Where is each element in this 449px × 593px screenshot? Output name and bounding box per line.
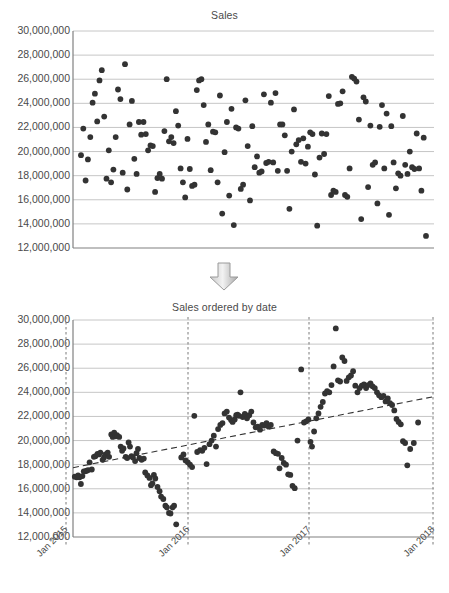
data-point	[229, 106, 235, 112]
data-point	[191, 413, 197, 419]
data-point	[402, 440, 408, 446]
data-point	[407, 446, 413, 452]
data-point	[175, 123, 181, 129]
data-point	[314, 223, 320, 229]
data-point	[243, 97, 249, 103]
data-point	[121, 446, 127, 452]
data-point	[400, 113, 406, 119]
data-point	[311, 429, 317, 435]
data-point	[199, 76, 205, 82]
data-point	[203, 139, 209, 145]
data-point	[289, 149, 295, 155]
data-point	[97, 78, 103, 84]
data-point	[284, 168, 290, 174]
data-point	[379, 102, 385, 108]
data-point	[231, 222, 237, 228]
data-point	[164, 505, 170, 511]
data-point	[310, 131, 316, 137]
data-point	[180, 179, 186, 185]
data-point	[333, 326, 339, 332]
data-point	[254, 154, 260, 160]
data-point	[381, 166, 387, 172]
data-point	[104, 176, 110, 182]
data-point	[354, 79, 360, 85]
data-point	[298, 367, 304, 373]
data-point	[201, 102, 207, 108]
data-point	[135, 446, 141, 452]
data-point	[377, 124, 383, 130]
data-point	[181, 452, 187, 458]
data-point	[152, 476, 158, 482]
data-point	[115, 87, 121, 93]
data-point	[391, 160, 397, 166]
data-point	[124, 187, 130, 193]
data-point	[275, 168, 281, 174]
data-point	[113, 134, 119, 140]
data-point	[368, 123, 374, 129]
data-point	[331, 364, 337, 370]
data-point	[168, 134, 174, 140]
data-point	[268, 100, 274, 106]
data-point	[317, 155, 323, 161]
plot-area-bottom	[0, 296, 449, 593]
data-point	[344, 194, 350, 200]
data-point	[220, 420, 226, 426]
data-point	[204, 461, 210, 467]
data-point	[261, 91, 267, 97]
data-point	[217, 93, 223, 99]
data-point	[211, 433, 217, 439]
data-point	[292, 485, 298, 491]
data-point	[375, 201, 381, 207]
data-point	[118, 96, 124, 102]
data-point	[402, 162, 408, 168]
data-point	[416, 166, 422, 172]
data-point	[224, 409, 230, 415]
data-point	[101, 114, 107, 120]
data-point	[141, 119, 147, 125]
data-point	[171, 140, 177, 146]
data-point	[90, 100, 96, 106]
data-point	[131, 156, 137, 162]
data-point	[213, 444, 219, 450]
data-point	[245, 143, 251, 149]
data-point	[306, 417, 312, 423]
data-point	[173, 108, 179, 114]
data-point	[187, 166, 193, 172]
data-point	[363, 99, 369, 105]
data-point	[283, 462, 289, 468]
data-point	[421, 135, 427, 141]
data-point	[205, 122, 211, 128]
data-point	[160, 496, 166, 502]
data-point	[85, 157, 91, 163]
data-point	[303, 161, 309, 167]
data-point	[78, 152, 84, 158]
data-point	[337, 379, 343, 385]
data-point	[108, 179, 114, 185]
data-point	[189, 464, 195, 470]
data-point	[333, 189, 339, 195]
data-point	[273, 90, 279, 96]
data-point	[268, 422, 274, 428]
data-point	[350, 368, 356, 374]
data-point	[122, 61, 128, 67]
data-point	[340, 88, 346, 94]
data-point	[87, 134, 93, 140]
data-point	[127, 122, 133, 128]
data-point	[212, 129, 218, 135]
data-point	[178, 166, 184, 172]
data-point	[78, 481, 84, 487]
data-point	[324, 131, 330, 137]
data-point	[236, 126, 242, 132]
data-point	[300, 135, 306, 141]
data-point	[386, 212, 392, 218]
trendline	[73, 397, 434, 468]
data-point	[173, 521, 179, 527]
data-point	[143, 131, 149, 137]
data-point	[280, 122, 286, 128]
data-point	[329, 382, 335, 388]
data-point	[398, 421, 404, 427]
data-point	[356, 117, 362, 123]
data-point	[106, 454, 112, 460]
data-point	[320, 399, 326, 405]
data-point	[270, 160, 276, 166]
